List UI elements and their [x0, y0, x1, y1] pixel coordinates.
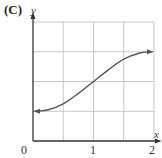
curve-left-arrow-icon: [33, 109, 40, 114]
axes: [31, 12, 162, 144]
x-tick-label-0: 0: [21, 143, 27, 158]
sigmoid-chart: [0, 0, 161, 158]
y-axis-label: y: [31, 4, 36, 16]
curve-right-arrow-icon: [147, 49, 154, 54]
x-tick-label-1: 1: [90, 143, 96, 158]
x-axis-label: x: [154, 128, 159, 140]
x-tick-label-2: 2: [149, 143, 155, 158]
